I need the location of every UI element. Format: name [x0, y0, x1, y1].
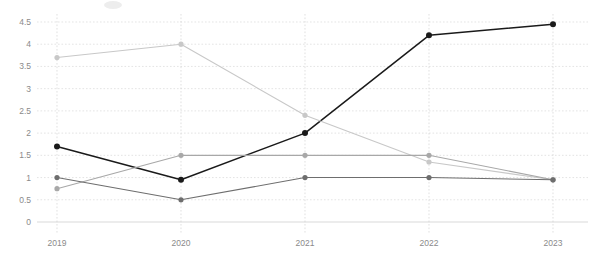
data-point — [426, 32, 432, 38]
data-point — [302, 175, 307, 180]
x-axis-labels: 20192020202120222023 — [48, 238, 563, 248]
data-point — [302, 113, 307, 118]
data-point — [426, 159, 431, 164]
line-chart: 00.511.522.533.544.5 2019202020212022202… — [0, 0, 595, 259]
y-axis-tick-label: 0 — [26, 217, 31, 227]
data-point — [54, 55, 59, 60]
y-axis-tick-label: 0.5 — [19, 195, 31, 205]
data-point — [54, 186, 59, 191]
x-axis-tick-label: 2019 — [48, 238, 67, 248]
series-lines — [54, 21, 556, 202]
data-point — [426, 153, 431, 158]
y-axis-tick-label: 1.5 — [19, 150, 31, 160]
data-point — [54, 175, 59, 180]
y-axis-tick-label: 2.5 — [19, 106, 31, 116]
x-axis-tick-label: 2022 — [420, 238, 439, 248]
data-point — [302, 153, 307, 158]
x-axis-tick-label: 2020 — [172, 238, 191, 248]
data-point — [178, 153, 183, 158]
y-axis-tick-label: 1 — [26, 173, 31, 183]
data-point — [302, 130, 308, 136]
vertical-gridlines — [57, 14, 553, 234]
data-point — [178, 42, 183, 47]
y-axis-tick-label: 2 — [26, 128, 31, 138]
y-axis-tick-label: 4.5 — [19, 17, 31, 27]
y-axis-tick-label: 4 — [26, 39, 31, 49]
data-point — [550, 177, 555, 182]
data-point — [178, 197, 183, 202]
data-point — [54, 143, 60, 149]
legend-marker-ghost — [104, 1, 122, 9]
x-axis-tick-label: 2021 — [296, 238, 315, 248]
gridlines — [37, 22, 588, 222]
y-axis-tick-label: 3.5 — [19, 61, 31, 71]
data-point — [550, 21, 556, 27]
y-axis-tick-label: 3 — [26, 84, 31, 94]
data-point — [178, 177, 184, 183]
data-point — [426, 175, 431, 180]
y-axis-labels: 00.511.522.533.544.5 — [19, 17, 31, 227]
chart-canvas: 00.511.522.533.544.5 2019202020212022202… — [0, 0, 595, 259]
x-axis-tick-label: 2023 — [544, 238, 563, 248]
